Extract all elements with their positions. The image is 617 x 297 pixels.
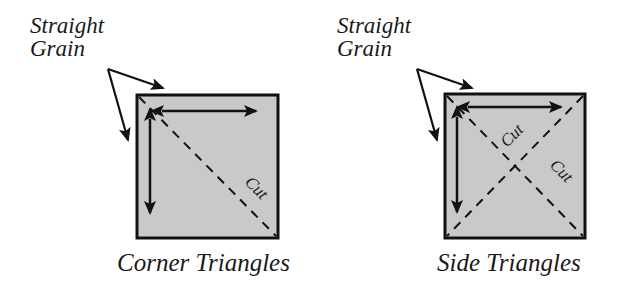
straight-grain-line1: Straight [337, 14, 411, 37]
side-triangles-diagram: Cut Cut [417, 69, 585, 238]
straight-grain-label-side: Straight Grain [337, 14, 411, 60]
straight-grain-label-corner: Straight Grain [30, 14, 104, 60]
straight-grain-line2: Grain [30, 37, 104, 60]
straight-grain-line1: Straight [30, 14, 104, 37]
grain-pointer-arrow-right [417, 69, 472, 88]
grain-pointer-arrow-down [417, 69, 437, 140]
corner-triangles-diagram: Cut [108, 69, 278, 238]
straight-grain-line2: Grain [337, 37, 411, 60]
grain-pointer-arrow-down [108, 69, 128, 140]
grain-pointer-arrow-right [108, 69, 163, 88]
caption-side-triangles: Side Triangles [437, 250, 581, 275]
caption-corner-triangles: Corner Triangles [117, 250, 290, 275]
